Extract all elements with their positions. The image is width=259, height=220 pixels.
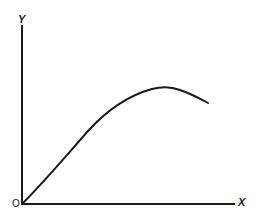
origin-label: O — [12, 199, 20, 209]
y-axis-label: Y — [18, 14, 25, 25]
data-curve-line — [22, 87, 208, 204]
chart-plot-area — [0, 0, 259, 220]
figure-canvas: Y X O — [0, 0, 259, 220]
x-axis-label: X — [238, 197, 245, 208]
